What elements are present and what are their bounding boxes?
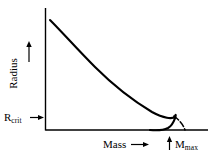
- unstable-branch-curve: [174, 116, 185, 130]
- radius-axis-arrow: [26, 41, 31, 62]
- mass-axis-arrow: [131, 142, 149, 147]
- rcrit-arrow: [30, 115, 44, 120]
- mmax-arrow: [167, 136, 172, 150]
- mmax-base: M: [175, 138, 185, 150]
- x-axis-label: Mass: [103, 139, 126, 150]
- mmax-label: Mmax: [175, 139, 198, 151]
- mass-radius-diagram: Radius Mass Rcrit Mmax: [0, 0, 212, 162]
- mass-radius-curve: [50, 20, 176, 130]
- mmax-subscript: max: [185, 143, 198, 152]
- rcrit-label: Rcrit: [4, 112, 22, 124]
- y-axis-label: Radius: [8, 48, 19, 100]
- rcrit-subscript: crit: [11, 116, 21, 125]
